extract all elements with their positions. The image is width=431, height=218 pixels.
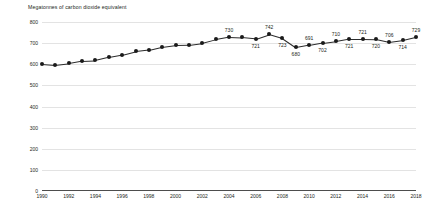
x-axis-tick-label: 2012	[330, 193, 341, 199]
gridline	[42, 149, 416, 150]
data-point	[214, 37, 218, 41]
gridline	[42, 128, 416, 129]
y-axis-tick-label: 100	[30, 167, 38, 173]
data-point-label: 720	[372, 43, 380, 49]
y-axis-tick-label: 800	[30, 19, 38, 25]
gridline	[42, 107, 416, 108]
x-axis-tick-label: 1994	[90, 193, 101, 199]
chart-container: Megatonnes of carbon dioxide equivalent …	[0, 0, 431, 218]
gridline	[42, 22, 416, 23]
x-axis-tick-label: 1992	[63, 193, 74, 199]
data-point	[374, 37, 378, 41]
x-axis-tick-label: 2014	[357, 193, 368, 199]
x-axis-tick-label: 1996	[117, 193, 128, 199]
x-axis-tick-label: 2002	[197, 193, 208, 199]
x-axis-tick-label: 1990	[36, 193, 47, 199]
data-point	[401, 38, 405, 42]
data-point	[187, 43, 191, 47]
data-point	[254, 37, 258, 41]
gridline	[42, 170, 416, 171]
data-point-label: 710	[332, 31, 340, 37]
plot-area: 7307217427236806917027107217217207067147…	[42, 22, 416, 191]
y-axis-tick-label: 300	[30, 125, 38, 131]
data-point	[174, 43, 178, 47]
x-axis: 1990199219941996199820002002200420062008…	[42, 193, 416, 207]
data-point	[134, 49, 138, 53]
data-point	[93, 58, 97, 62]
data-point	[307, 43, 311, 47]
y-axis-tick-label: 400	[30, 104, 38, 110]
data-point	[200, 41, 204, 45]
chart-title: Megatonnes of carbon dioxide equivalent	[28, 4, 127, 10]
data-point	[321, 41, 325, 45]
x-axis-tick-label: 2004	[223, 193, 234, 199]
data-point	[160, 45, 164, 49]
data-point-label: 723	[278, 42, 286, 48]
y-axis-tick-label: 500	[30, 82, 38, 88]
data-point-label: 729	[412, 27, 420, 33]
data-point-label: 706	[385, 32, 393, 38]
data-point	[107, 55, 111, 59]
data-point	[147, 48, 151, 52]
data-point-label: 702	[318, 47, 326, 53]
data-point	[347, 37, 351, 41]
x-axis-tick-label: 2008	[277, 193, 288, 199]
data-point	[40, 62, 44, 66]
x-axis-tick-label: 2000	[170, 193, 181, 199]
data-point-label: 721	[358, 29, 366, 35]
data-point	[414, 35, 418, 39]
data-point	[80, 59, 84, 63]
data-point-label: 730	[225, 27, 233, 33]
data-point	[334, 39, 338, 43]
data-point	[120, 53, 124, 57]
y-axis: 0100200300400500600700800	[20, 22, 38, 191]
data-point	[361, 37, 365, 41]
y-axis-tick-label: 700	[30, 40, 38, 46]
data-point	[294, 45, 298, 49]
data-point-label: 721	[252, 43, 260, 49]
data-point	[240, 35, 244, 39]
data-point	[227, 35, 231, 39]
data-point-label: 721	[345, 43, 353, 49]
x-axis-baseline	[42, 190, 416, 191]
x-axis-tick-label: 2006	[250, 193, 261, 199]
x-axis-tick-label: 2016	[384, 193, 395, 199]
y-axis-tick-label: 600	[30, 61, 38, 67]
data-point-label: 742	[265, 24, 273, 30]
gridline	[42, 43, 416, 44]
data-point-label: 680	[292, 51, 300, 57]
data-point-label: 691	[305, 35, 313, 41]
x-axis-tick-label: 2010	[304, 193, 315, 199]
data-point	[53, 63, 57, 67]
x-axis-tick-label: 2018	[410, 193, 421, 199]
gridline	[42, 64, 416, 65]
y-axis-tick-label: 200	[30, 146, 38, 152]
gridline	[42, 85, 416, 86]
x-axis-tick-label: 1998	[143, 193, 154, 199]
data-point-label: 714	[398, 44, 406, 50]
